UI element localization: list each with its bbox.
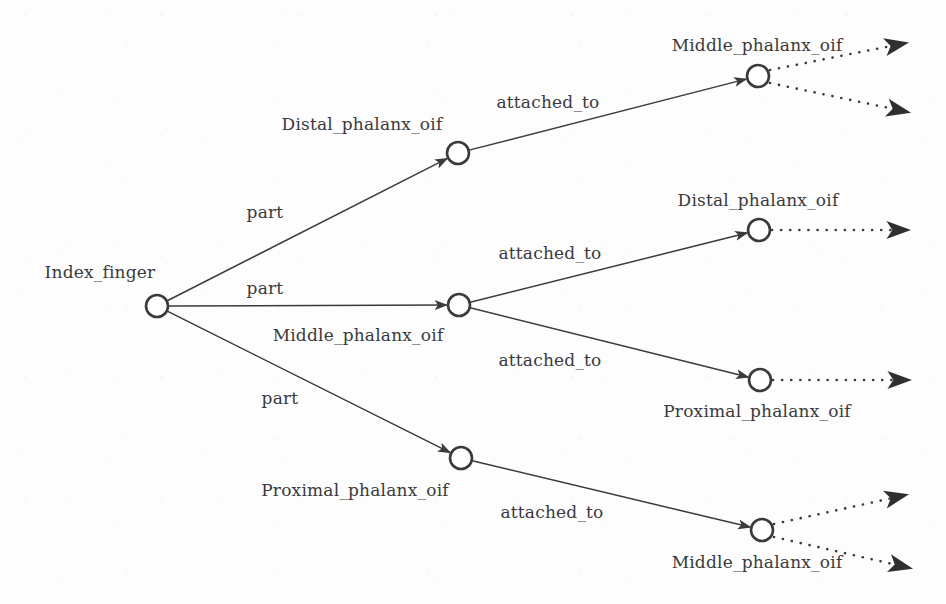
- graph-svg: [0, 0, 946, 604]
- dotted-edge-from-middle_l2b-4: [774, 495, 906, 524]
- node-label-proximal_l2: Proximal_phalanx_oif: [663, 401, 851, 421]
- edge-label-attached_to-3: attached_to: [496, 92, 599, 112]
- node-proximal_l1[interactable]: [450, 447, 472, 469]
- node-middle_l1[interactable]: [448, 294, 470, 316]
- node-label-root: Index_finger: [45, 262, 156, 282]
- edge-label-part-0: part: [247, 202, 284, 222]
- node-label-distal_l1: Distal_phalanx_oif: [282, 114, 443, 134]
- dotted-edge-from-middle_l2a-1: [770, 83, 908, 112]
- node-label-middle_l2a: Middle_phalanx_oif: [672, 35, 843, 55]
- edge-root-to-distal_l1: [167, 159, 447, 301]
- edge-label-part-2: part: [262, 388, 299, 408]
- node-label-middle_l1: Middle_phalanx_oif: [273, 325, 444, 345]
- node-root[interactable]: [146, 295, 168, 317]
- diagram-canvas: partpartpartattached_toattached_toattach…: [0, 0, 946, 604]
- node-label-distal_l2: Distal_phalanx_oif: [678, 190, 839, 210]
- edge-label-attached_to-5: attached_to: [498, 350, 601, 370]
- node-distal_l2[interactable]: [748, 219, 770, 241]
- node-distal_l1[interactable]: [447, 142, 469, 164]
- node-label-proximal_l1: Proximal_phalanx_oif: [261, 480, 449, 500]
- node-proximal_l2[interactable]: [749, 369, 771, 391]
- edge-label-attached_to-6: attached_to: [500, 502, 603, 522]
- dotted-edge-group: [770, 43, 910, 568]
- edge-root-to-middle_l1: [168, 305, 446, 306]
- node-label-middle_l2b: Middle_phalanx_oif: [672, 552, 843, 572]
- node-group: [146, 65, 773, 541]
- edge-label-attached_to-4: attached_to: [498, 243, 601, 263]
- node-middle_l2b[interactable]: [751, 519, 773, 541]
- edge-label-part-1: part: [247, 278, 284, 298]
- node-middle_l2a[interactable]: [747, 65, 769, 87]
- edge-distal_l1-to-middle_l2a: [469, 79, 746, 150]
